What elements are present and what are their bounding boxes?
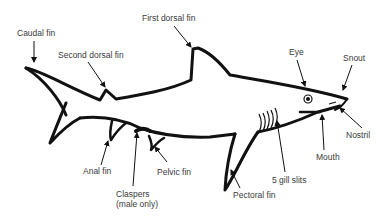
label-first-dorsal-fin: First dorsal fin [142, 13, 195, 23]
label-caudal-fin: Caudal fin [17, 28, 55, 38]
label-pectoral-fin: Pectoral fin [233, 190, 276, 200]
label-mouth: Mouth [316, 152, 340, 162]
shark-anatomy-diagram: Caudal fin Second dorsal fin First dorsa… [0, 0, 390, 218]
label-claspers-note: (male only) [116, 199, 158, 209]
label-claspers: Claspers [116, 189, 150, 199]
label-nostril: Nostril [346, 130, 370, 140]
label-second-dorsal-fin: Second dorsal fin [58, 50, 124, 60]
label-gill-slits: 5 gill slits [272, 175, 306, 185]
label-pelvic-fin: Pelvic fin [157, 167, 191, 177]
shark-outline-drawing [0, 0, 390, 218]
label-anal-fin: Anal fin [83, 166, 111, 176]
label-eye: Eye [289, 47, 304, 57]
label-snout: Snout [343, 53, 365, 63]
